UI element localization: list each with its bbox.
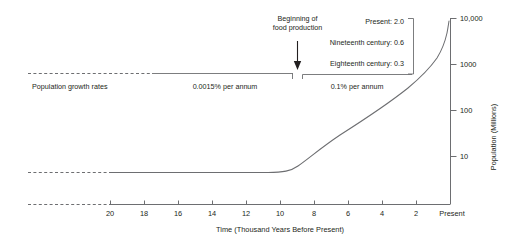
- nineteenth-century-rate-label: Nineteenth century: 0.6: [330, 38, 404, 47]
- x-axis-title: Time (Thousand Years Before Present): [216, 225, 344, 234]
- food-production-arrow-head: [294, 61, 301, 70]
- bracket-right-line: [303, 75, 413, 80]
- x-tick-label-20: 20: [106, 209, 114, 218]
- recent-rates-bracket: [408, 19, 414, 75]
- y-axis-ticks: [451, 19, 457, 157]
- x-tick-label-4: 4: [380, 209, 384, 218]
- population-growth-chart: Beginning of food production Population …: [0, 0, 508, 248]
- food-production-label-line1: Beginning of: [278, 14, 318, 23]
- early-growth-rate-label: 0.0015% per annum: [193, 82, 258, 91]
- x-axis-ticks: [111, 201, 417, 205]
- x-tick-label-18: 18: [140, 209, 148, 218]
- y-axis-title: Population (Millions): [489, 104, 498, 171]
- recent-rates-bracket-line: [408, 19, 414, 75]
- present-rate-label: Present: 2.0: [365, 17, 404, 26]
- late-growth-rate-label: 0.1% per annum: [331, 82, 384, 91]
- food-production-marker: [294, 41, 301, 70]
- x-tick-label-12: 12: [242, 209, 250, 218]
- growth-rate-bracket-right: [303, 75, 413, 80]
- food-production-label-line2: food production: [273, 23, 323, 32]
- y-tick-label-10000: 10,000: [460, 14, 483, 23]
- y-tick-label-1000: 1000: [460, 60, 476, 69]
- eighteenth-century-rate-label: Eighteenth century: 0.3: [330, 59, 404, 68]
- x-tick-label-present: Present: [439, 209, 464, 218]
- y-tick-label-100: 100: [460, 106, 472, 115]
- x-tick-label-6: 6: [346, 209, 350, 218]
- x-tick-label-8: 8: [312, 209, 316, 218]
- y-tick-label-10: 10: [460, 152, 468, 161]
- x-tick-label-14: 14: [208, 209, 216, 218]
- x-tick-label-2: 2: [414, 209, 418, 218]
- growth-rate-bracket-left: [28, 74, 293, 80]
- x-tick-label-16: 16: [174, 209, 182, 218]
- x-tick-label-10: 10: [276, 209, 284, 218]
- population-growth-rates-label: Population growth rates: [32, 82, 108, 91]
